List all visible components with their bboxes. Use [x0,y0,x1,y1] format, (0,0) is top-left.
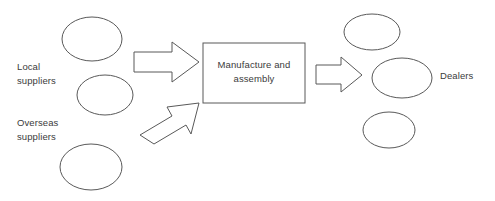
overseas-supplier-ellipse-1 [60,144,122,190]
label-overseas-suppliers: Overseas suppliers [17,116,58,143]
dealer-ellipse-3 [363,112,415,148]
arrow-overseas-to-manufacture [140,103,199,144]
local-supplier-ellipse-1 [62,17,122,61]
label-local-suppliers: Local suppliers [17,60,56,87]
arrow-manufacture-to-dealers [316,57,362,92]
local-supplier-ellipse-2 [77,75,133,115]
diagram-shapes-layer [0,0,495,201]
supply-chain-diagram: Local suppliers Overseas suppliers Manuf… [0,0,495,201]
dealer-ellipse-1 [344,14,400,50]
label-manufacture-assembly: Manufacture and assembly [204,58,304,85]
arrow-local-to-manufacture [134,42,199,82]
dealer-ellipse-2 [372,58,432,98]
label-dealers: Dealers [440,69,473,83]
